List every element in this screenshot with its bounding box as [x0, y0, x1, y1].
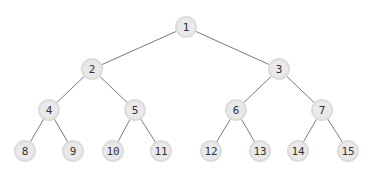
tree-node-6: 6 [226, 100, 246, 120]
node-label: 11 [154, 145, 167, 158]
binary-tree-diagram: 123456789101112131415 [0, 0, 369, 174]
node-label: 12 [204, 145, 217, 158]
edges-layer [25, 27, 348, 151]
tree-node-15: 15 [338, 141, 358, 161]
node-label: 9 [70, 145, 77, 158]
node-label: 6 [233, 104, 240, 117]
node-label: 8 [22, 145, 29, 158]
node-label: 7 [319, 104, 326, 117]
tree-node-14: 14 [288, 141, 308, 161]
node-label: 15 [341, 145, 354, 158]
tree-node-9: 9 [63, 141, 83, 161]
tree-node-3: 3 [269, 59, 289, 79]
tree-node-11: 11 [151, 141, 171, 161]
tree-node-4: 4 [39, 100, 59, 120]
tree-node-5: 5 [125, 100, 145, 120]
tree-node-12: 12 [201, 141, 221, 161]
tree-node-1: 1 [176, 17, 196, 37]
node-label: 1 [183, 21, 190, 34]
node-label: 10 [106, 145, 119, 158]
tree-node-2: 2 [82, 59, 102, 79]
node-label: 4 [46, 104, 53, 117]
tree-node-13: 13 [250, 141, 270, 161]
node-label: 14 [291, 145, 305, 158]
tree-node-10: 10 [103, 141, 123, 161]
edge-1-2 [92, 27, 186, 69]
node-label: 3 [276, 63, 283, 76]
node-label: 13 [253, 145, 266, 158]
tree-node-7: 7 [312, 100, 332, 120]
node-label: 2 [89, 63, 96, 76]
node-label: 5 [132, 104, 139, 117]
tree-node-8: 8 [15, 141, 35, 161]
edge-1-3 [186, 27, 279, 69]
